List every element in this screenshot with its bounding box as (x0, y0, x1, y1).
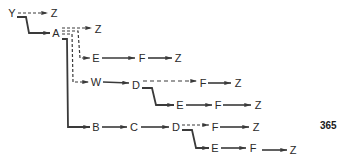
node-z: Z (95, 24, 102, 35)
node-e: E (176, 100, 183, 111)
node-z: Z (235, 78, 242, 89)
page-number: 365 (320, 121, 337, 131)
edge-d-e-2 (182, 130, 209, 148)
node-w: W (91, 77, 101, 88)
node-z: Z (175, 53, 182, 64)
node-d: D (132, 80, 140, 91)
node-f: F (215, 100, 222, 111)
edge-y-a (17, 17, 50, 33)
node-c: C (130, 122, 138, 133)
node-z: Z (255, 100, 262, 111)
node-e: E (92, 53, 99, 64)
node-f: F (139, 53, 146, 64)
node-z: Z (51, 8, 58, 19)
node-f: F (212, 122, 219, 133)
node-b: B (92, 122, 99, 133)
edge-w-d (103, 82, 129, 83)
node-z: Z (253, 122, 260, 133)
node-d: D (172, 122, 180, 133)
edge-a-w (62, 34, 89, 82)
edge-a-b (62, 39, 90, 127)
node-f: F (250, 143, 257, 154)
node-z: Z (290, 145, 297, 156)
node-f: F (200, 78, 207, 89)
edges-layer (0, 0, 358, 162)
edge-d-e-1 (142, 88, 174, 105)
node-e: E (211, 143, 218, 154)
derivation-tree-diagram: Y Z A Z E F Z W D F Z E F Z B C D F Z E … (0, 0, 358, 162)
node-y: Y (8, 8, 15, 19)
node-a: A (52, 28, 59, 39)
